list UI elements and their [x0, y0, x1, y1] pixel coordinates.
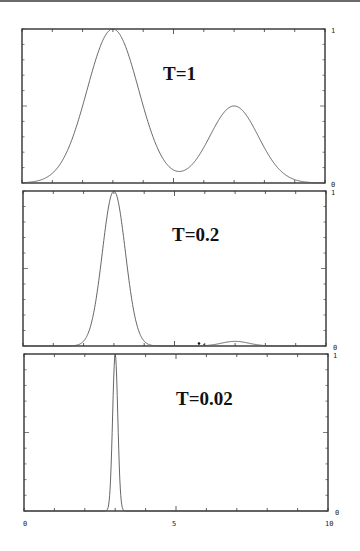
panel-frame — [23, 191, 326, 346]
panel-1 — [22, 29, 325, 183]
panel-1-title: T=1 — [163, 63, 196, 84]
x-axis-label-5: 5 — [172, 520, 176, 528]
distribution-curve-T=0.02 — [24, 354, 328, 511]
artifact-dot — [203, 344, 205, 346]
panel-1-ymax-label: 1 — [331, 27, 335, 35]
panel-2-ymax-label: 1 — [331, 189, 335, 197]
x-axis-label-0: 0 — [23, 520, 27, 528]
panel-3-ymax-label: 1 — [333, 352, 337, 360]
x-axis-label-10: 10 — [325, 520, 333, 528]
panel-3-ymin-label: 0 — [335, 509, 339, 517]
temperature-distribution-chart: T=1 T=0.2 T=0.02 1 0 1 0 1 0 0 5 10 — [0, 0, 360, 551]
distribution-curve-T=1 — [22, 29, 325, 183]
panel-2 — [23, 191, 326, 346]
panel-1-ymin-label: 0 — [331, 181, 335, 189]
panel-3 — [24, 354, 328, 511]
artifact-dot — [198, 342, 201, 345]
panel-2-title: T=0.2 — [172, 224, 219, 245]
panel-frame — [22, 29, 325, 183]
panel-frame — [24, 354, 328, 511]
distribution-curve-T=0.2 — [23, 191, 326, 346]
panel-2-ymin-label: 0 — [333, 344, 337, 352]
panel-3-title: T=0.02 — [176, 388, 233, 409]
